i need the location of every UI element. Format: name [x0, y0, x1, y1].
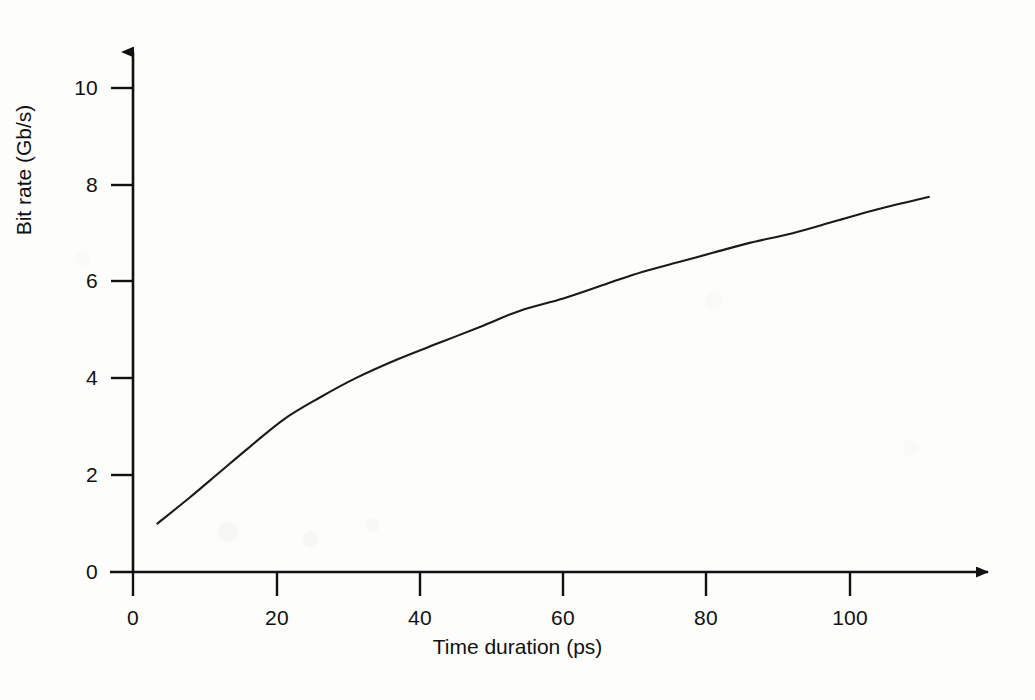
- y-tick-label-10: 10: [36, 76, 98, 100]
- chart-figure: 10 8 6 4 2 0 0 20 40 60 80 100 Time dura…: [0, 0, 1035, 700]
- y-axis-ticks: [111, 88, 133, 475]
- x-tick-label-60: 60: [533, 606, 593, 630]
- y-tick-label-8: 8: [36, 173, 98, 197]
- x-tick-label-20: 20: [247, 606, 307, 630]
- x-tick-label-0: 0: [103, 606, 163, 630]
- x-axis-title: Time duration (ps): [0, 635, 1035, 659]
- x-tick-label-100: 100: [820, 606, 880, 630]
- y-tick-label-6: 6: [36, 269, 98, 293]
- y-tick-label-0: 0: [36, 560, 98, 584]
- plot-area: [0, 0, 1035, 700]
- x-axis-ticks: [133, 572, 850, 596]
- y-tick-label-2: 2: [36, 463, 98, 487]
- data-series-line: [157, 197, 928, 524]
- x-tick-label-40: 40: [390, 606, 450, 630]
- x-tick-label-80: 80: [676, 606, 736, 630]
- y-axis-title: Bit rate (Gb/s): [12, 50, 36, 290]
- y-tick-label-4: 4: [36, 366, 98, 390]
